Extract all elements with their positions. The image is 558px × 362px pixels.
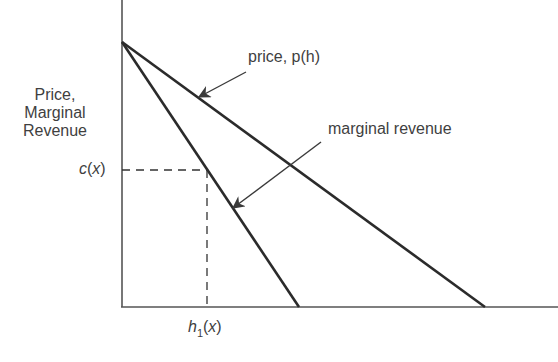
quantity-symbol: h (188, 318, 197, 335)
y-axis-label-line-1: Price, (0, 86, 110, 104)
quantity-subscript: 1 (197, 327, 203, 339)
price-annotation: price, p(h) (248, 48, 320, 66)
paren: ) (100, 160, 105, 177)
price-line (122, 42, 485, 307)
marginal-revenue-arrow (233, 142, 321, 208)
y-axis-label-line-2: Marginal (0, 104, 110, 122)
price-arrow (199, 72, 246, 97)
cost-symbol: c (79, 160, 87, 177)
y-axis-label-line-3: Revenue (0, 122, 110, 140)
cost-tick-label: c(x) (79, 160, 106, 178)
quantity-tick-label: h1(x) (188, 318, 222, 341)
paren: ) (216, 318, 221, 335)
marginal-revenue-annotation: marginal revenue (328, 120, 452, 138)
marginal-revenue-line (122, 42, 299, 307)
y-axis-label: Price, Marginal Revenue (0, 86, 110, 140)
